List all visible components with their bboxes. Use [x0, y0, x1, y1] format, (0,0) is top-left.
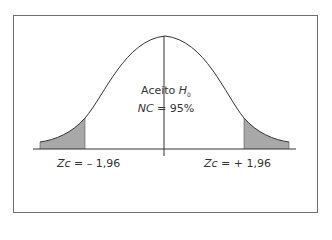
right-rejection-region: [244, 118, 289, 149]
acceptance-label: Aceito H0 NC = 95%: [124, 84, 208, 116]
acceptance-line1: Aceito H0: [124, 84, 208, 102]
left-critical-value: Zc = – 1,96: [57, 157, 120, 170]
left-rejection-region: [40, 118, 85, 149]
confidence-level: NC = 95%: [124, 102, 208, 116]
right-critical-value: Zc = + 1,96: [204, 157, 271, 170]
